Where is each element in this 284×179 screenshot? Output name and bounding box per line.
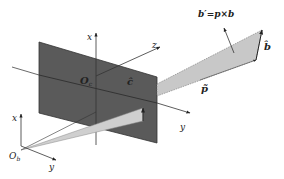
body-x-label: x [12, 113, 17, 123]
b-prime-label: b′=p×b [198, 9, 234, 19]
camera-z-label: z [151, 40, 157, 50]
camera-y-axis [157, 103, 190, 113]
p-tilde-label: p̃ [201, 83, 208, 94]
projection-diagram: x z y Oc ĉ b′=p×b b̂ p̃ x y Ob [0, 0, 284, 179]
camera-y-label: y [179, 122, 186, 132]
body-y-label: y [48, 162, 55, 172]
camera-x-label: x [87, 32, 92, 42]
camera-z-axis-back [12, 67, 39, 75]
pb-plane-wedge [157, 30, 262, 96]
b-hat-label: b̂ [264, 40, 271, 52]
c-hat-label: ĉ [127, 76, 133, 87]
body-origin-label: Ob [9, 151, 20, 162]
body-y-axis [21, 146, 56, 160]
